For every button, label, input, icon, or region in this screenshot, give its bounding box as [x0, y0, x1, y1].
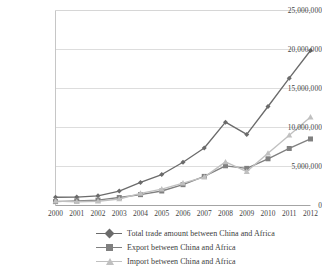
legend-marker-square-icon: [106, 244, 113, 251]
plot-frame: [56, 11, 311, 206]
y-tick-label: 20,000,000: [270, 46, 322, 53]
legend-label: Import between China and Africa: [122, 257, 236, 266]
data-point: [223, 159, 229, 164]
legend-item[interactable]: Export between China and Africa: [96, 240, 322, 254]
x-tick-label: 2002: [87, 210, 109, 217]
legend-label: Export between China and Africa: [122, 243, 236, 252]
series-export: [53, 136, 313, 204]
x-tick-label: 2012: [300, 210, 322, 217]
data-point: [117, 189, 122, 194]
data-point: [308, 114, 314, 119]
x-tick-label: 2008: [215, 210, 237, 217]
y-tick-label: 10,000,000: [270, 124, 322, 131]
x-tick-label: 2005: [151, 210, 173, 217]
data-point: [308, 136, 313, 141]
data-point: [287, 146, 292, 151]
legend-key-triangle-icon: [96, 255, 122, 267]
data-point: [138, 180, 143, 185]
x-tick-label: 2006: [172, 210, 194, 217]
x-tick-label: 2011: [278, 210, 300, 217]
y-tick-label: 0: [270, 202, 322, 209]
legend-label: Total trade amount between China and Afr…: [122, 229, 275, 238]
x-tick-label: 2010: [257, 210, 279, 217]
legend-item[interactable]: Total trade amount between China and Afr…: [96, 226, 322, 240]
x-tick-label: 2004: [130, 210, 152, 217]
y-tick-label: 25,000,000: [270, 7, 322, 14]
x-tick-label: 2009: [236, 210, 258, 217]
legend-key-diamond-icon: [96, 227, 122, 239]
series-line: [56, 139, 311, 202]
x-tick-label: 2001: [66, 210, 88, 217]
x-tick-label: 2000: [45, 210, 67, 217]
chart-legend: Total trade amount between China and Afr…: [96, 226, 322, 268]
legend-key-square-icon: [96, 241, 122, 253]
x-tick-label: 2007: [193, 210, 215, 217]
legend-item[interactable]: Import between China and Africa: [96, 254, 322, 268]
line-chart: 25,000,00020,000,00015,000,00010,000,000…: [0, 0, 322, 270]
x-tick-label: 2003: [108, 210, 130, 217]
data-point: [96, 193, 101, 198]
y-tick-label: 15,000,000: [270, 85, 322, 92]
legend-marker-triangle-icon: [106, 258, 114, 265]
legend-marker-diamond-icon: [105, 228, 115, 238]
data-point: [266, 156, 271, 161]
y-tick-label: 5,000,000: [270, 163, 322, 170]
